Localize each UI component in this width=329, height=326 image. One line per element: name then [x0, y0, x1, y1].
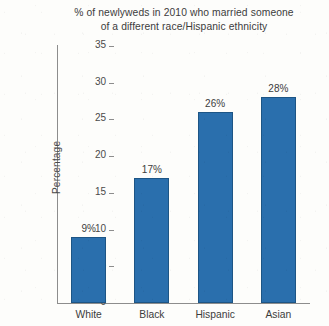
y-axis-tick-mark: [109, 46, 114, 47]
bar-value-label: 9%: [59, 223, 118, 234]
x-axis-category-label: Asian: [241, 309, 316, 320]
bar-value-label: 26%: [186, 98, 245, 109]
chart-title: % of newlyweds in 2010 who married someo…: [45, 6, 323, 33]
y-axis-tick-mark: [109, 193, 114, 194]
bar-item[interactable]: 9%White: [71, 46, 106, 303]
bar-rect[interactable]: [261, 97, 296, 303]
y-axis-tick-mark: [109, 303, 114, 304]
plot-area: Percentage 05101520253035 9%White17%Blac…: [57, 46, 310, 303]
y-axis-tick-mark: [109, 119, 114, 120]
y-axis-title: Percentage: [51, 141, 62, 194]
chart-title-line-2: of a different race/Hispanic ethnicity: [45, 20, 323, 34]
bar-rect[interactable]: [134, 178, 169, 303]
y-axis-tick-mark: [109, 266, 114, 267]
y-axis-tick-mark: [109, 83, 114, 84]
y-axis-tick-mark: [109, 156, 114, 157]
bar-chart: % of newlyweds in 2010 who married someo…: [0, 0, 329, 326]
bar-item[interactable]: 17%Black: [134, 46, 169, 303]
bar-value-label: 28%: [249, 83, 308, 94]
bar-rect[interactable]: [198, 112, 233, 303]
bar-value-label: 17%: [122, 164, 181, 175]
bar-rect[interactable]: [71, 237, 106, 303]
bar-item[interactable]: 26%Hispanic: [198, 46, 233, 303]
bar-item[interactable]: 28%Asian: [261, 46, 296, 303]
y-axis-tick: 0: [57, 303, 114, 304]
chart-title-line-1: % of newlyweds in 2010 who married someo…: [45, 6, 323, 20]
